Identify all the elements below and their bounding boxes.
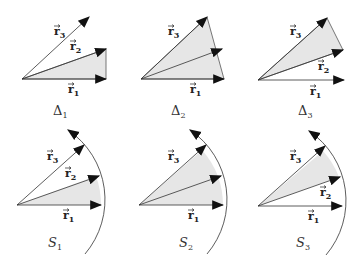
shaded-triangle — [258, 18, 343, 80]
vector-diagram: r3 r2 r1 Δ1 r3 r1 Δ2 r3 r2 r1 Δ3 r3 r2 r… — [0, 0, 363, 267]
label-r1: r1 — [190, 83, 201, 98]
panel-s-3: r3 r2 r1 S3 — [258, 131, 346, 255]
caption-delta-2: Δ2 — [171, 103, 185, 120]
panel-s-2: r3 r1 S2 — [139, 130, 227, 254]
label-r2: r2 — [320, 186, 331, 201]
label-r3: r3 — [168, 25, 180, 40]
panel-delta-3: r3 r2 r1 Δ3 — [258, 18, 344, 120]
label-r3: r3 — [54, 25, 66, 40]
panel-delta-2: r3 r1 Δ2 — [141, 17, 224, 120]
caption-s-3: S3 — [296, 235, 310, 252]
label-r3: r3 — [290, 150, 302, 165]
label-r1: r1 — [68, 83, 79, 98]
label-r2: r2 — [65, 167, 76, 182]
caption-s-1: S1 — [48, 235, 62, 252]
shaded-sector — [139, 150, 223, 205]
label-r3: r3 — [47, 150, 59, 165]
label-r3: r3 — [168, 150, 180, 165]
label-r1: r1 — [308, 210, 319, 225]
panel-delta-1: r3 r2 r1 Δ1 — [22, 17, 106, 120]
caption-s-2: S2 — [179, 235, 193, 252]
caption-delta-1: Δ1 — [53, 103, 67, 120]
label-r3: r3 — [290, 25, 302, 40]
panel-s-1: r3 r2 r1 S1 — [17, 130, 105, 254]
label-r1: r1 — [310, 85, 321, 100]
label-r2: r2 — [70, 40, 81, 55]
label-r1: r1 — [188, 209, 199, 224]
label-r2: r2 — [318, 60, 329, 75]
label-r1: r1 — [63, 209, 74, 224]
caption-delta-3: Δ3 — [298, 103, 312, 120]
shaded-triangle — [141, 17, 224, 79]
